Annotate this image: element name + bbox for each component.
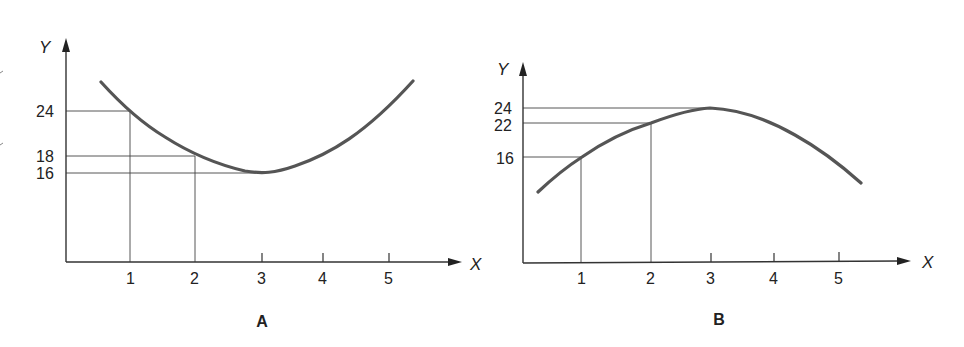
panel-label-a: A [256,313,268,330]
y-tick-label: 22 [494,117,512,134]
x-axis-arrow-icon [448,258,462,266]
y-axis-arrow-icon [62,38,70,52]
chart-a: Y X 24 18 16 1 2 3 4 5 A [36,38,482,330]
chart-b: Y X 24 22 16 1 2 3 4 5 B [494,60,934,328]
x-tick-label: 2 [646,270,655,287]
y-tick-label: 24 [494,100,512,117]
chart-b-curve [538,108,861,192]
x-tick-label: 1 [126,270,135,287]
x-tick-label: 4 [769,270,778,287]
x-tick-label: 2 [190,270,199,287]
y-axis-label: Y [497,60,510,79]
panel-label-b: B [713,311,725,328]
x-tick-label: 5 [834,270,843,287]
y-axis-label: Y [39,38,52,57]
y-tick-label: 16 [36,165,54,182]
x-tick-label: 5 [384,270,393,287]
chart-b-guides [523,108,709,263]
x-tick-label: 3 [706,270,715,287]
y-tick-label: 18 [36,148,54,165]
x-axis-label: X [469,255,482,274]
x-tick-label: 1 [577,270,586,287]
figure-canvas: Y X 24 18 16 1 2 3 4 5 A Y X [0,0,964,347]
y-tick-label: 16 [496,150,514,167]
y-axis-arrow-icon [519,62,527,76]
y-tick-label: 24 [36,103,54,120]
x-axis-label: X [921,253,934,272]
cropped-edge-mark [0,143,3,145]
x-tick-label: 4 [318,270,327,287]
cropped-edge-mark [0,71,3,73]
chart-a-curve [101,81,413,173]
x-tick-label: 3 [257,270,266,287]
x-axis-arrow-icon [897,257,911,265]
